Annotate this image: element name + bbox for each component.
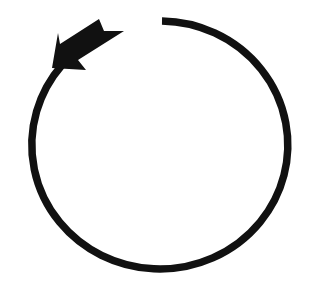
circular-arrow-icon xyxy=(0,0,310,291)
arrowhead-icon xyxy=(52,19,124,70)
